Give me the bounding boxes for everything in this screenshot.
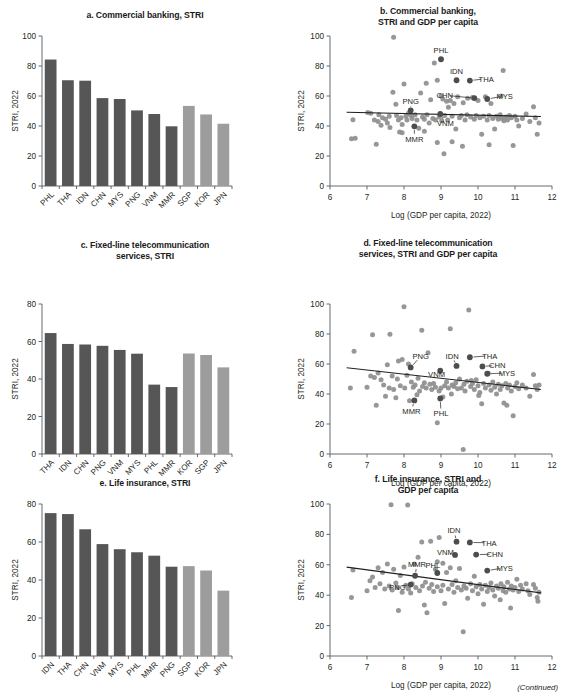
scatter-point	[463, 389, 468, 394]
scatter-point	[365, 385, 370, 390]
bar	[183, 106, 195, 186]
scatter-point	[385, 121, 390, 126]
panel-title: d. Fixed-line telecommunicationservices,…	[290, 238, 566, 260]
scatter-point-highlighted	[484, 96, 490, 102]
panel-title: e. Life insurance, STRI	[0, 478, 290, 489]
scatter-point-highlighted	[411, 123, 417, 129]
scatter-point-highlighted	[412, 573, 418, 579]
scatter-point	[387, 332, 392, 337]
scatter-point	[537, 383, 542, 388]
scatter-point	[374, 142, 379, 147]
scatter-point	[393, 102, 398, 107]
y-tick-label: 0	[319, 182, 324, 191]
x-category-label: MYS	[106, 190, 125, 209]
label-leader-line	[455, 535, 456, 538]
scatter-point	[492, 593, 497, 598]
scatter-point	[524, 581, 529, 586]
bar	[200, 355, 212, 454]
y-axis-title: STRI, 2022	[11, 90, 20, 132]
scatter-point	[435, 140, 440, 145]
scatter-point	[374, 403, 379, 408]
bar	[148, 556, 160, 656]
x-category-label: PNG	[124, 190, 143, 209]
scatter-point	[417, 588, 422, 593]
continued-note: (Continued)	[517, 683, 558, 692]
scatter-point-highlighted	[480, 364, 486, 370]
scatter-point	[444, 570, 449, 575]
bar	[62, 514, 74, 656]
scatter-point	[413, 383, 418, 388]
scatter-point	[424, 81, 429, 86]
x-category-label: CHN	[89, 190, 108, 209]
country-label: PHL	[434, 46, 449, 55]
scatter-point	[373, 585, 378, 590]
bar	[148, 114, 160, 186]
bar	[131, 110, 143, 186]
scatter-point-highlighted	[408, 108, 414, 114]
x-category-label: IDN	[74, 190, 90, 206]
scatter-point	[492, 127, 497, 132]
bar	[131, 354, 143, 454]
scatter-point	[527, 592, 532, 597]
bar	[62, 344, 74, 454]
country-label: CHN	[486, 550, 502, 559]
country-label: CHN	[436, 91, 452, 100]
panel-c-fixedline-telecom-stri: c. Fixed-line telecommunicationservices,…	[0, 232, 290, 464]
country-label: MMR	[408, 560, 427, 569]
scatter-point-highlighted	[467, 540, 473, 546]
bar	[114, 549, 126, 656]
scatter-point	[424, 610, 429, 615]
country-label: THA	[479, 75, 495, 84]
scatter-point	[527, 394, 532, 399]
y-tick-label: 0	[319, 652, 324, 661]
bar	[131, 552, 143, 656]
x-tick-label: 10	[473, 193, 483, 202]
scatter-point	[393, 395, 398, 400]
x-axis-title: Log (GDP per capita, 2022)	[391, 681, 491, 690]
x-tick-label: 10	[473, 663, 483, 672]
scatter-point	[422, 380, 427, 385]
bar	[45, 333, 57, 454]
panel-title: a. Commercial banking, STRI	[0, 10, 290, 21]
scatter-point	[408, 590, 413, 595]
scatter-point	[390, 374, 395, 379]
bar	[166, 126, 178, 186]
bar	[183, 354, 195, 455]
scatter-point	[422, 603, 427, 608]
scatter-point	[453, 380, 458, 385]
scatter-point	[448, 565, 453, 570]
bar	[114, 99, 126, 186]
scatter-point	[382, 587, 387, 592]
scatter-point	[535, 599, 540, 604]
x-category-label: VNM	[141, 190, 160, 209]
bar	[97, 98, 109, 186]
panel-b-commercial-banking-scatter: b. Commercial banking,STRI and GDP per c…	[290, 0, 566, 232]
scatter-point	[476, 591, 481, 596]
bar	[79, 81, 91, 186]
x-tick-label: 12	[547, 663, 557, 672]
scatter-point	[481, 602, 486, 607]
scatter-point	[450, 582, 455, 587]
scatter-point	[451, 590, 456, 595]
scatter-point	[476, 383, 481, 388]
scatter-point	[402, 82, 407, 87]
scatter-point	[396, 608, 401, 613]
scatter-point	[422, 117, 427, 122]
scatter-point	[376, 565, 381, 570]
scatter-point	[479, 401, 484, 406]
scatter-point	[537, 121, 542, 126]
scatter-point	[472, 387, 477, 392]
scatter-point	[463, 118, 468, 123]
scatter-point	[487, 142, 492, 147]
scatter-point	[516, 124, 521, 129]
scatter-point	[428, 97, 433, 102]
scatter-point	[379, 123, 384, 128]
scatter-point	[472, 574, 477, 579]
country-label: MYS	[496, 92, 512, 101]
scatter-point	[377, 581, 382, 586]
scatter-point	[461, 100, 466, 105]
y-tick-label: 100	[310, 300, 324, 309]
scatter-point	[435, 584, 440, 589]
scatter-point	[446, 587, 451, 592]
scatter-point-highlighted	[484, 568, 490, 574]
